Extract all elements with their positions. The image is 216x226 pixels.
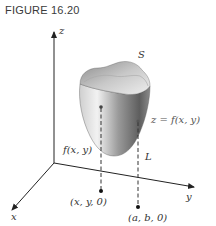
x-axis-label: x [11,211,17,222]
point-ab0-label: (a, b, 0) [128,212,167,223]
surface-point-ab [137,120,140,123]
y-axis-label: y [186,191,192,202]
height-label: f(x, y) [63,144,92,155]
z-axis-label: z [59,25,64,36]
figure-16-20: FIGURE 16.20 [0,0,216,226]
point-xy0 [99,189,103,193]
surface-name-label: S [138,49,145,60]
3d-surface-diagram [0,0,216,226]
surface-equation-label: z = f(x, y) [151,114,200,125]
point-ab0 [136,205,140,209]
line-label: L [145,151,152,162]
x-axis [12,163,54,210]
y-axis [54,163,194,187]
surface-point-xy [99,105,103,109]
point-xy0-label: (x, y, 0) [70,196,107,207]
